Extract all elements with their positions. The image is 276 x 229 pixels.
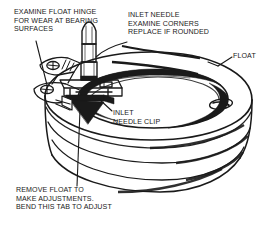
diagram-canvas: EXAMINE FLOAT HINGE FOR WEAR AT BEARING …: [0, 0, 276, 229]
callout-inlet-needle-clip: INLET NEEDLE CLIP: [113, 109, 160, 126]
callout-remove-float: REMOVE FLOAT TO MAKE ADJUSTMENTS. BEND T…: [16, 186, 112, 212]
callout-float: FLOAT: [233, 52, 256, 61]
callout-inlet-needle: INLET NEEDLE EXAMINE CORNERS REPLACE IF …: [128, 11, 209, 37]
leader-line-hinge: [36, 41, 47, 85]
callout-examine-float-hinge: EXAMINE FLOAT HINGE FOR WEAR AT BEARING …: [14, 8, 98, 34]
float-seam-shading: [118, 125, 248, 192]
float-bowl-shadow-right: [168, 83, 228, 128]
